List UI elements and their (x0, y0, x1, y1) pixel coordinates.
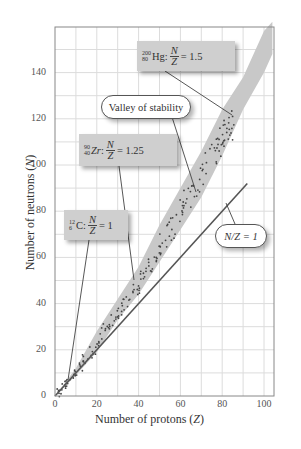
x-tick-label: 60 (165, 398, 195, 409)
x-tick-label: 20 (82, 398, 112, 409)
c-isotope-numbers: 126 (69, 219, 75, 231)
y-tick-label: 140 (22, 66, 46, 77)
zr-isotope-numbers: 9040 (84, 144, 90, 156)
y-tick-label: 20 (22, 343, 46, 354)
hg-isotope-numbers: 20080 (142, 50, 151, 62)
chart-container: 020406080100120140 020406080100 Number o… (0, 0, 301, 449)
c-fraction: NZ (88, 215, 97, 236)
x-tick-label: 0 (40, 398, 70, 409)
nz1-label: N/Z = 1 (215, 224, 267, 248)
valley-of-stability-label: Valley of stability (101, 95, 191, 119)
x-axis-label: Number of protons (Z) (95, 412, 204, 427)
hg-label-box: 20080 Hg: NZ = 1.5 (137, 41, 235, 71)
x-tick-label: 100 (249, 398, 279, 409)
hg-fraction: NZ (170, 46, 179, 67)
zr-label-box: 9040 Zr: NZ = 1.25 (79, 134, 177, 166)
zr-fraction: NZ (106, 140, 115, 161)
stability-band (55, 22, 272, 396)
y-tick-label: 120 (22, 112, 46, 123)
x-tick-label: 80 (207, 398, 237, 409)
x-tick-label: 40 (124, 398, 154, 409)
c-label-box: 126 C: NZ = 1 (64, 210, 128, 240)
y-axis-label: Number of neutrons (N) (23, 138, 38, 288)
y-tick-label: 40 (22, 297, 46, 308)
